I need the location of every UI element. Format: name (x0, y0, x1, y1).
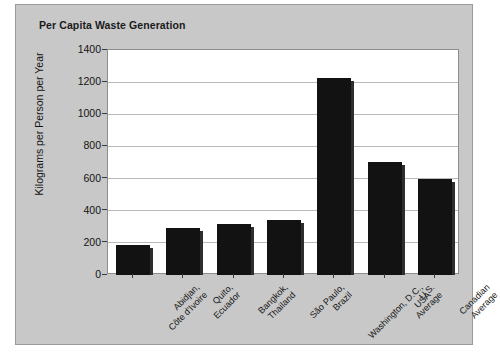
y-axis-tick-label: 0 (55, 268, 101, 280)
y-axis-label: Kilograms per Person per Year (33, 24, 45, 224)
bar-shadow (452, 182, 455, 275)
x-axis-tick-label: Quito,Ecuador (204, 282, 243, 321)
bar[interactable] (418, 179, 452, 275)
y-axis-tick-labels: 0200400600800100012001400 (49, 49, 101, 274)
x-axis-tick-mark (233, 274, 234, 278)
x-axis-tick-label: Abidjan,Côte d'Ivoire (159, 282, 210, 333)
x-axis-tick-label: São Paulo,Brazil (308, 282, 355, 329)
gridline (108, 146, 458, 147)
y-axis-tick-label: 400 (55, 204, 101, 216)
y-axis-tick-label: 800 (55, 139, 101, 151)
x-axis-tick-label: Bangkok,Thailand (256, 282, 298, 324)
y-axis-tick-label: 1200 (55, 75, 101, 87)
gridline (108, 178, 458, 179)
plot-area (107, 49, 459, 274)
bar-shadow (200, 231, 203, 275)
chart-figure: Per Capita Waste Generation Kilograms pe… (15, 4, 473, 345)
x-axis-tick-mark (182, 274, 183, 278)
bar[interactable] (116, 245, 150, 275)
bar[interactable] (267, 220, 301, 275)
bar-shadow (402, 165, 405, 275)
y-axis-tick-label: 1400 (55, 43, 101, 55)
bar[interactable] (368, 162, 402, 275)
gridline (108, 82, 458, 83)
y-axis-tick-label: 600 (55, 172, 101, 184)
y-axis-tick-label: 200 (55, 236, 101, 248)
chart-title: Per Capita Waste Generation (39, 19, 185, 31)
x-axis-tick-mark (384, 274, 385, 278)
x-axis-tick-mark (132, 274, 133, 278)
x-axis-tick-mark (283, 274, 284, 278)
gridline (108, 210, 458, 211)
bar-shadow (301, 223, 304, 275)
bar-shadow (251, 227, 254, 275)
bar[interactable] (166, 228, 200, 275)
gridline (108, 114, 458, 115)
bar-shadow (351, 81, 354, 275)
x-axis-tick-mark (434, 274, 435, 278)
bar[interactable] (217, 224, 251, 275)
bar-shadow (150, 248, 153, 275)
y-axis-tick-label: 1000 (55, 107, 101, 119)
x-axis-tick-mark (333, 274, 334, 278)
x-axis-tick-label: CanadianAverage (457, 282, 500, 325)
bar[interactable] (317, 78, 351, 275)
